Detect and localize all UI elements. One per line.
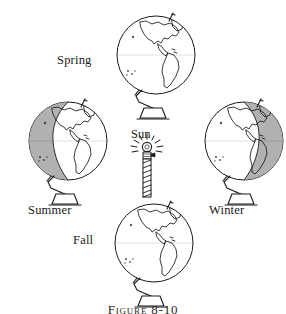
season-label-summer: Summer [28,203,72,218]
globe-winter [194,94,286,212]
globe-fall [104,196,204,314]
season-label-winter: Winter [209,203,244,218]
figure-caption: Figure 8-10 [0,302,286,314]
globe-spring [106,8,206,126]
sun-lamp-icon [126,133,168,201]
season-label-spring: Spring [57,53,92,68]
seasons-diagram: Spring Summer Winter Fall Sun Figure 8-1… [0,0,286,314]
globe-summer [18,94,118,212]
season-label-fall: Fall [73,233,93,248]
sun-label: Sun [131,127,150,142]
